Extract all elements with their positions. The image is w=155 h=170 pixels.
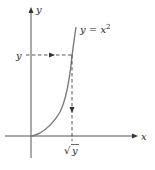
parabola-curve: y = x2 [31,23,111,136]
function-diagram: y x y = x2 y √ y [0,0,155,170]
right-arrow-icon [49,53,55,58]
sqrt-argument: y [71,145,78,156]
x-axis-arrow-icon [132,134,138,139]
sqrt-y-label: √ y [64,145,79,157]
x-axis: x [5,131,147,142]
y-axis-arrow-icon [29,7,34,13]
y-value-label: y [15,50,22,61]
horizontal-guide: y [15,50,72,61]
curve-label: y = x2 [79,23,111,35]
y-axis-label: y [35,4,42,15]
sqrt-symbol: √ [64,145,71,156]
down-arrow-icon [70,107,75,113]
x-axis-label: x [141,131,147,142]
